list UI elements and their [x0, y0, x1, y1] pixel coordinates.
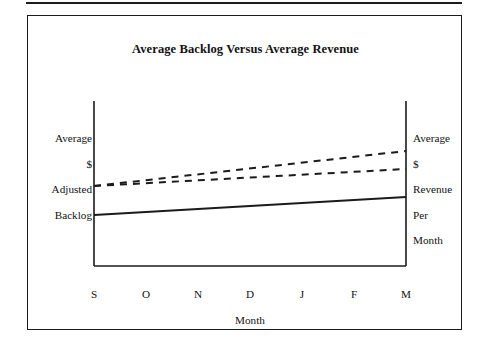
left-axis-label-line: $ — [28, 152, 92, 178]
series-line-revenue-upper — [94, 151, 406, 186]
right-axis-label-line: Month — [413, 228, 483, 254]
left-axis-label-line: Backlog — [28, 203, 92, 229]
series-line-adjusted-backlog — [94, 197, 406, 215]
right-axis-label-line: Per — [413, 203, 483, 229]
left-axis-label-line: Average — [28, 126, 92, 152]
left-axis-label-line: Adjusted — [28, 177, 92, 203]
top-horizontal-rule — [26, 2, 462, 4]
right-axis-label: Average $ Revenue Per Month — [413, 126, 483, 254]
right-axis-label-line: Revenue — [413, 177, 483, 203]
plot-area — [28, 16, 463, 331]
series-line-revenue-lower — [94, 169, 406, 186]
right-axis-label-line: $ — [413, 152, 483, 178]
figure-frame: Average Backlog Versus Average Revenue A… — [27, 15, 462, 330]
x-axis-title: Month — [94, 314, 406, 326]
left-axis-label: Average $ Adjusted Backlog — [28, 126, 92, 228]
right-axis-label-line: Average — [413, 126, 483, 152]
figure-page: Average Backlog Versus Average Revenue A… — [0, 0, 488, 352]
